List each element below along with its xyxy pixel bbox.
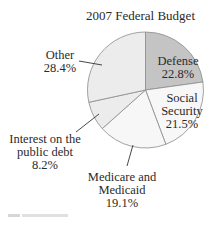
interest-label: Interest on the public debt 8.2% [5,133,85,172]
medicare-leader-line [127,145,133,166]
interest-value: 8.2% [5,159,85,172]
medicare-value: 19.1% [82,197,162,210]
cropped-caption [8,214,68,217]
ss-value: 21.5% [152,118,212,131]
pie-slice-other [87,32,145,102]
social-security-label: Social Security 21.5% [152,92,212,131]
defense-value: 22.8% [148,68,208,81]
other-value: 28.4% [40,62,80,75]
defense-label: Defense 22.8% [148,55,208,81]
medicare-label: Medicare and Medicaid 19.1% [82,171,162,210]
other-label: Other 28.4% [40,49,80,75]
interest-leader-line [76,114,99,132]
